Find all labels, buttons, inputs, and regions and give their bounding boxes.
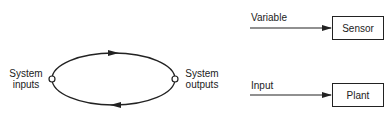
loop-arrow-top-icon: [108, 50, 119, 56]
system-inputs-label: System inputs: [6, 68, 46, 90]
feedback-loop-ellipse: [52, 53, 175, 105]
sensor-block-label: Sensor: [342, 23, 374, 34]
sensor-block: Sensor: [332, 16, 384, 40]
output-node-icon: [172, 76, 178, 82]
variable-label: Variable: [251, 12, 287, 23]
system-outputs-label-line1: System: [180, 68, 224, 79]
system-inputs-label-line2: inputs: [6, 79, 46, 90]
input-node-icon: [49, 76, 55, 82]
loop-arrow-bottom-icon: [110, 102, 121, 108]
plant-block-label: Plant: [347, 90, 370, 101]
system-outputs-label-line2: outputs: [180, 79, 224, 90]
plant-block: Plant: [332, 83, 384, 107]
system-inputs-label-line1: System: [6, 68, 46, 79]
system-outputs-label: System outputs: [180, 68, 224, 90]
input-label: Input: [251, 80, 273, 91]
